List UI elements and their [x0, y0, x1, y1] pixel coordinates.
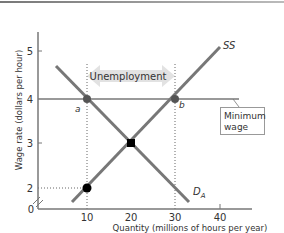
point-a [83, 95, 91, 103]
y-tick-3: 3 [27, 138, 33, 149]
x-tick-40: 40 [214, 212, 227, 223]
unemployment-label: Unemployment [90, 71, 167, 82]
top-border [0, 1, 284, 3]
demand-label: DA [193, 186, 206, 200]
y-tick-2: 2 [27, 183, 33, 194]
axis-break-icon [33, 197, 40, 204]
point-a-label: a [75, 104, 81, 114]
equilibrium-point [127, 139, 135, 147]
x-axis-label: Quantity (millions of hours per year) [113, 223, 268, 233]
minimum-wage-label-line1: Minimum [224, 111, 266, 121]
x-tick-30: 30 [169, 212, 182, 223]
y-tick-4: 4 [27, 94, 33, 105]
point-b-label: b [179, 100, 185, 110]
x-tick-10: 10 [81, 212, 94, 223]
supply-label: SS [223, 40, 236, 51]
axis-break-icon [36, 200, 43, 207]
origin-label: 0 [28, 204, 34, 215]
y-tick-5: 5 [27, 46, 33, 57]
x-tick-20: 20 [125, 212, 138, 223]
minimum-wage-label-line2: wage [224, 122, 249, 132]
y-axis-label: Wage rate (dollars per hour) [14, 50, 24, 170]
point-b [171, 95, 179, 103]
demand-curve [56, 66, 189, 202]
labor-market-chart: Unemployment a b SS DA Minimum wage 5 4 … [0, 0, 284, 233]
point-wage-2 [83, 184, 92, 193]
